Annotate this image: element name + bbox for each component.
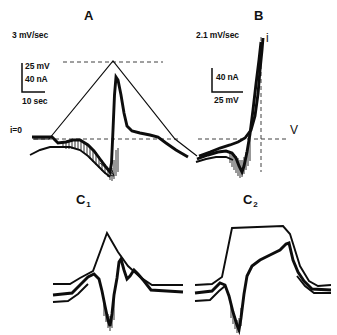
panel-c2-voltage-ramp-trace xyxy=(195,226,331,286)
panel-a-current-lower-limb xyxy=(30,147,110,177)
panel-a-membrane-current-trace xyxy=(32,77,188,172)
panel-c1-group xyxy=(53,233,183,331)
figure-root: A B C1 C2 3 mV/sec 25 mV 40 nA 10 sec i=… xyxy=(0,0,337,335)
panel-a-scalebar xyxy=(22,63,45,92)
panel-b-group xyxy=(196,37,288,178)
panel-c2-membrane-current-trace xyxy=(195,243,331,330)
panel-c1-membrane-current-trace xyxy=(53,259,183,326)
trace-canvas xyxy=(0,0,337,335)
panel-a-group xyxy=(22,61,197,181)
panel-b-scalebar xyxy=(212,68,243,92)
panel-c2-group xyxy=(195,226,331,333)
